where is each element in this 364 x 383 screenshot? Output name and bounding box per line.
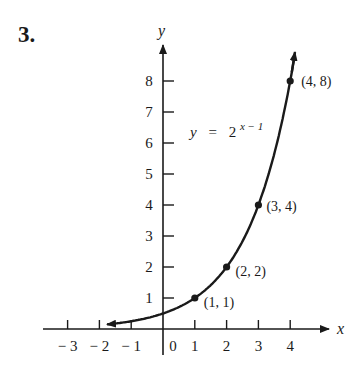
point-label: (2, 2)	[236, 264, 267, 280]
y-tick-label: 2	[145, 259, 153, 275]
curve	[107, 52, 295, 324]
x-tick-label: − 1	[121, 338, 141, 354]
y-tick-label: 3	[145, 228, 153, 244]
data-point	[223, 263, 230, 270]
x-tick-label: − 2	[90, 338, 110, 354]
x-tick-label: 3	[255, 338, 263, 354]
data-point	[191, 294, 198, 301]
x-tick-label: 2	[223, 338, 231, 354]
y-tick-label: 7	[145, 104, 153, 120]
y-axis-label: y	[156, 22, 166, 40]
x-axis: − 3− 2− 101234	[43, 320, 329, 354]
x-axis-label: x	[336, 320, 344, 337]
y-tick-label: 8	[145, 73, 153, 89]
point-label: (1, 1)	[204, 295, 235, 311]
y-axis: 12345678	[145, 45, 174, 355]
x-tick-label: 4	[286, 338, 294, 354]
y-tick-label: 5	[145, 166, 153, 182]
point-label: (4, 8)	[301, 74, 332, 90]
exponential-graph: − 3− 2− 101234 12345678 (1, 1)(2, 2)(3, …	[0, 0, 364, 383]
equation-label: y = 2 x − 1	[188, 120, 263, 140]
x-tick-label: − 3	[58, 338, 78, 354]
data-point	[255, 201, 262, 208]
y-tick-label: 1	[145, 290, 153, 306]
data-point	[287, 77, 294, 84]
point-label: (3, 4)	[266, 199, 297, 215]
x-tick-label: 1	[191, 338, 199, 354]
y-tick-label: 4	[145, 197, 153, 213]
y-tick-label: 6	[145, 135, 153, 151]
x-tick-label: 0	[169, 338, 177, 354]
exponential-curve	[107, 60, 294, 325]
